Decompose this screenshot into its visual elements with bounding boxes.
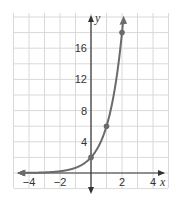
x-axis-label: x xyxy=(159,175,166,189)
x-tick-label: −4 xyxy=(23,176,36,188)
y-tick-label: 12 xyxy=(75,73,87,85)
x-tick-label: 2 xyxy=(119,176,125,188)
data-point xyxy=(88,155,94,161)
data-point xyxy=(104,123,110,129)
y-tick-label: 16 xyxy=(75,42,87,54)
y-axis-arrow-up-icon xyxy=(88,15,94,22)
y-tick-label: 4 xyxy=(81,136,87,148)
axes xyxy=(17,15,165,194)
x-tick-label: −2 xyxy=(54,176,67,188)
exponential-graph: −4−224481216 x y xyxy=(0,0,179,201)
y-axis-label: y xyxy=(94,11,101,25)
curve xyxy=(17,16,127,177)
x-tick-label: 4 xyxy=(150,176,156,188)
y-tick-label: 8 xyxy=(81,105,87,117)
y-axis-arrow-down-icon xyxy=(88,187,94,194)
data-point xyxy=(119,30,125,36)
curve-arrow-left-icon xyxy=(17,170,25,177)
